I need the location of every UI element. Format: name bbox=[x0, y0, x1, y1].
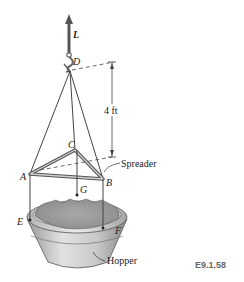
point-g bbox=[76, 194, 79, 197]
spreader-frame bbox=[30, 150, 103, 179]
spreader-leader bbox=[104, 163, 120, 172]
hook-icon bbox=[64, 53, 73, 72]
figure-code: E9.1.58 bbox=[195, 260, 226, 270]
force-label: L bbox=[72, 29, 79, 40]
spreader-callout: Spreader bbox=[121, 158, 157, 169]
point-f-label: F bbox=[114, 225, 122, 236]
point-e bbox=[29, 219, 32, 222]
point-a-label: A bbox=[19, 171, 27, 182]
cables bbox=[30, 71, 103, 179]
hopper-diagram: L D 4 ft C A B Spreader bbox=[0, 0, 244, 282]
dimension-label: 4 ft bbox=[104, 105, 118, 116]
hopper-callout: Hopper bbox=[107, 255, 138, 266]
point-d-label: D bbox=[72, 56, 81, 67]
point-c-label: C bbox=[68, 139, 75, 150]
force-arrow-l bbox=[65, 14, 73, 53]
point-g-label: G bbox=[80, 184, 87, 195]
point-e-label: E bbox=[16, 216, 23, 227]
point-b-label: B bbox=[106, 177, 112, 188]
point-f bbox=[102, 227, 105, 230]
